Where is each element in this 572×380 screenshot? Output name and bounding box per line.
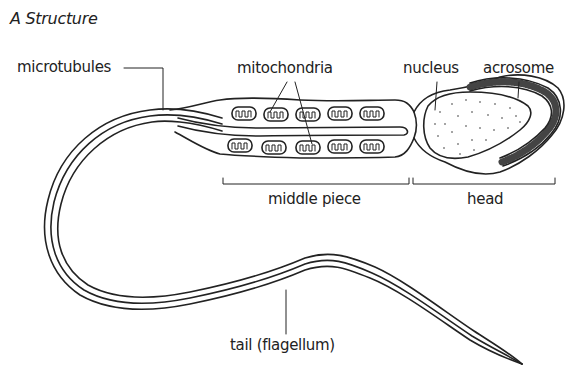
nucleus-stipple — [434, 99, 521, 155]
label-tail-flagellum: tail (flagellum) — [230, 338, 335, 353]
mitochondria-top-row — [232, 107, 384, 121]
acrosome-band — [470, 82, 556, 162]
mitochondria-cristae — [232, 111, 379, 151]
nucleus-outline — [424, 92, 531, 158]
region-brackets — [223, 178, 555, 184]
figure-title: A Structure — [10, 11, 98, 27]
label-mitochondria: mitochondria — [237, 61, 333, 76]
label-acrosome: acrosome — [483, 61, 554, 76]
label-middle-piece: middle piece — [268, 192, 361, 207]
tail-flagellum-strands — [45, 109, 522, 364]
label-nucleus: nucleus — [403, 61, 459, 76]
label-microtubules: microtubules — [17, 60, 111, 75]
sperm-structure-diagram: A Structure microtubules mitochondria nu… — [0, 0, 572, 380]
label-head: head — [467, 192, 503, 207]
